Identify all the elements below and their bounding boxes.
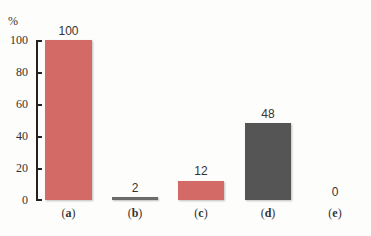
bar-a <box>45 40 92 200</box>
category-label-a: (a) <box>45 206 92 221</box>
value-label-c: 12 <box>178 164 224 178</box>
y-tick-label-40: 40 <box>0 130 28 142</box>
y-tick <box>36 168 42 170</box>
category-letter: a <box>66 206 72 220</box>
y-tick <box>36 40 42 42</box>
y-axis-line <box>36 40 38 200</box>
y-tick <box>36 104 42 106</box>
bar-d <box>245 123 291 200</box>
value-label-a: 100 <box>45 24 92 38</box>
category-letter: d <box>265 206 272 220</box>
y-tick <box>36 72 42 74</box>
y-tick-label-60: 60 <box>0 98 28 110</box>
category-label-c: (c) <box>178 206 224 221</box>
bar-chart: % 100 80 60 40 20 0 100 2 12 48 0 (a) (b… <box>0 0 371 236</box>
value-label-b: 2 <box>112 181 158 195</box>
y-tick <box>36 199 42 201</box>
category-letter: e <box>332 206 337 220</box>
bar-c <box>178 181 224 200</box>
category-label-e: (e) <box>312 206 358 221</box>
category-letter: b <box>132 206 139 220</box>
y-axis-unit: % <box>8 14 18 29</box>
value-label-e: 0 <box>312 185 358 199</box>
category-letter: c <box>198 206 203 220</box>
category-label-b: (b) <box>112 206 158 221</box>
y-tick <box>36 136 42 138</box>
y-tick-label-100: 100 <box>0 34 28 46</box>
y-tick-label-80: 80 <box>0 66 28 78</box>
bar-b <box>112 197 158 200</box>
value-label-d: 48 <box>245 107 291 121</box>
y-tick-label-0: 0 <box>0 194 28 206</box>
y-tick-label-20: 20 <box>0 162 28 174</box>
category-label-d: (d) <box>245 206 291 221</box>
